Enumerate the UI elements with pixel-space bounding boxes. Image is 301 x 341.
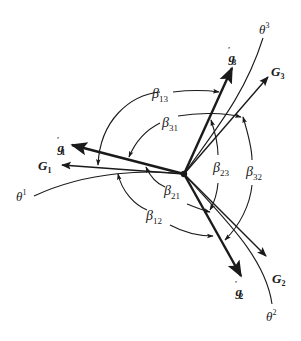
theta1-curve — [34, 172, 184, 196]
g3p-vector — [184, 68, 232, 174]
beta21-label: β21 — [163, 183, 180, 201]
G2-label: G2 — [272, 271, 285, 288]
G2-vector — [184, 174, 266, 256]
g2p-vector — [184, 174, 241, 276]
g2p-label: g′2 — [235, 280, 244, 301]
beta32-arc — [243, 117, 252, 160]
g1p-label: g′1 — [57, 136, 66, 157]
g3p-label: g′3 — [228, 46, 237, 67]
beta23-label: β23 — [212, 160, 229, 178]
theta3-label: θ3 — [259, 21, 269, 37]
angle-arcs — [98, 91, 252, 241]
coordinate-vector-diagram: θ1 θ3 θ2 G1 G3 G2 g′1 g′3 g′2 β13 β31 β2… — [0, 0, 301, 341]
theta2-label: θ2 — [266, 308, 276, 324]
beta32-label: β32 — [245, 164, 262, 182]
beta21-arc — [146, 167, 165, 187]
beta32-arc-lower — [225, 185, 252, 240]
beta21-arc-lower — [187, 204, 210, 212]
G3-vector — [184, 77, 268, 174]
coordinate-lines — [34, 38, 272, 304]
theta2-curve — [184, 174, 272, 304]
origin-point — [181, 171, 187, 177]
G3-label: G3 — [271, 64, 284, 81]
beta12-arc-lower — [170, 225, 213, 236]
beta23-arc — [211, 120, 218, 155]
G1-label: G1 — [38, 158, 51, 175]
theta1-label: θ1 — [16, 188, 26, 204]
beta31-label: β31 — [161, 115, 178, 133]
beta13-label: β13 — [151, 86, 168, 104]
beta13-arc-right — [173, 91, 219, 93]
beta31-arc — [129, 123, 160, 157]
beta12-arc — [118, 174, 147, 210]
beta12-label: β12 — [145, 208, 162, 226]
